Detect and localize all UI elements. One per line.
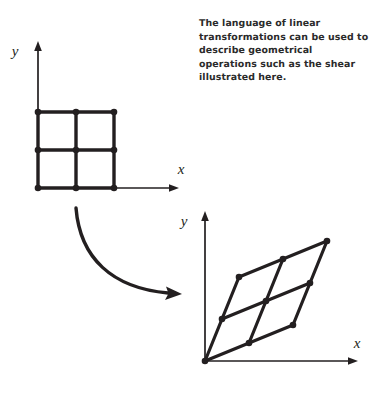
lattice-point [263, 298, 270, 305]
lattice-point [35, 109, 42, 116]
lattice-point [35, 147, 42, 154]
lattice-point [73, 147, 80, 154]
lattice-point [307, 280, 314, 287]
lattice-point [111, 109, 118, 116]
target-y-axis-label: y [179, 213, 188, 229]
lattice-point [324, 238, 331, 245]
lattice-point [111, 147, 118, 154]
source-y-axis-label: y [10, 43, 19, 59]
lattice-point [236, 274, 243, 281]
lattice-point [35, 185, 42, 192]
lattice-point [202, 358, 209, 365]
lattice-point [111, 185, 118, 192]
lattice-point [219, 316, 226, 323]
lattice-point [280, 256, 287, 263]
lattice-point [290, 322, 297, 329]
lattice-point [246, 340, 253, 347]
target-x-axis-label: x [353, 335, 361, 351]
lattice-point [73, 185, 80, 192]
source-x-axis-label: x [177, 161, 185, 177]
lattice-point [73, 109, 80, 116]
figure-caption: The language of linear transformations c… [199, 17, 371, 85]
